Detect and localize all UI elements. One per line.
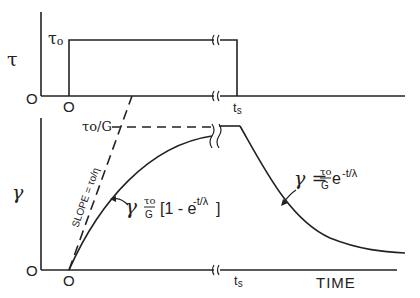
bottom-origin-x-label: O [63, 272, 75, 289]
time-axis-label: TIME [316, 274, 356, 291]
svg-text:]: ] [216, 200, 220, 217]
decay-leader-line [284, 190, 296, 202]
svg-text:e: e [332, 170, 341, 187]
decay-equation: γ = τo G e -t/λ [294, 166, 358, 191]
svg-text:-t/λ: -t/λ [193, 195, 209, 207]
svg-text:[1 - e: [1 - e [160, 200, 197, 217]
top-origin-x-label: O [63, 98, 75, 115]
decay-arrowhead-icon [281, 199, 288, 206]
rise-equation: γ τo G [1 - e -t/λ ] [125, 195, 220, 220]
bottom-ts-label: ts [234, 273, 243, 289]
svg-text:G: G [145, 209, 153, 220]
stress-pulse-end [220, 40, 237, 96]
tau-axis-label: τ [7, 48, 18, 70]
svg-text:τo: τo [144, 195, 156, 206]
plateau-label: τo/G [82, 119, 112, 134]
gamma-axis-label: γ [12, 181, 24, 203]
svg-text:-t/λ: -t/λ [342, 167, 358, 179]
tau-level-label: τo [48, 29, 64, 48]
bottom-origin-y-label: O [26, 262, 38, 279]
stress-pulse [69, 40, 214, 96]
top-origin-y-label: O [26, 90, 38, 107]
svg-text:G: G [321, 180, 329, 191]
creep-recovery-diagram: τ τo O O ts γ τo/G O O ts TIME SLOPE = τ… [0, 0, 420, 298]
plateau-break-icon [210, 124, 221, 148]
svg-text:τo: τo [320, 166, 332, 177]
svg-text:γ: γ [125, 195, 137, 219]
top-ts-label: ts [233, 100, 242, 116]
